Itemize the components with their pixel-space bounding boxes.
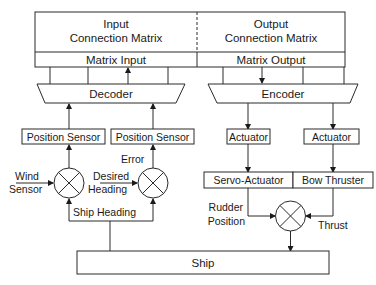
rudder-position-label-line2: Position [208,215,246,227]
servo-actuator-label: Servo-Actuator [213,174,284,186]
ship-heading-label: Ship Heading [73,206,136,218]
matrix-output-label: Matrix Output [236,54,306,66]
connection-matrix-block: Input Connection Matrix Output Connectio… [35,12,345,67]
actuator-left-label: Actuator [229,131,269,143]
actuator-right-label: Actuator [312,131,352,143]
matrix-connectors [50,67,344,84]
ship-control-summing-junction [276,201,306,231]
position-sensor-left-label: Position Sensor [27,131,101,143]
position-sensor-right-label: Position Sensor [116,131,190,143]
wind-sensor-label-line2: Sensor [9,183,43,195]
wind-sensor-label-line1: Wind [15,170,39,182]
rudder-position-label-line1: Rudder [209,201,244,213]
input-matrix-title-line1: Input [103,18,129,30]
ship-label: Ship [191,257,214,269]
thrust-label: Thrust [318,219,348,231]
output-matrix-title-line1: Output [254,18,289,30]
wind-summing-junction [54,168,84,198]
desired-heading-label-line2: Heading [88,183,127,195]
input-matrix-title-line2: Connection Matrix [70,32,163,44]
bow-thruster-label: Bow Thruster [302,174,365,186]
error-label: Error [121,153,145,165]
rudder-position-arrow [248,188,275,216]
matrix-input-label: Matrix Input [86,54,147,66]
ship-control-diagram: Input Connection Matrix Output Connectio… [0,0,376,285]
output-matrix-title-line2: Connection Matrix [225,32,318,44]
encoder-label: Encoder [262,88,305,100]
thrust-arrow [306,188,333,216]
desired-heading-label-line1: Desired [93,170,129,182]
decoder-label: Decoder [89,88,133,100]
heading-summing-junction [138,168,168,198]
